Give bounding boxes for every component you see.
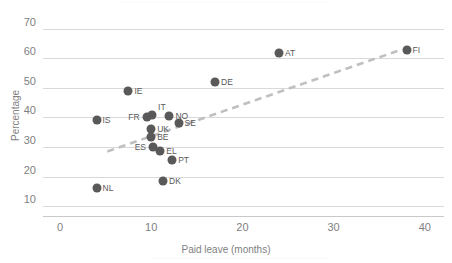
y-tick-70: 70 bbox=[8, 17, 36, 28]
point-label-is: IS bbox=[103, 116, 111, 125]
data-point-el bbox=[156, 147, 165, 156]
point-label-el: EL bbox=[166, 147, 176, 156]
data-point-is bbox=[92, 116, 101, 125]
data-point-dk bbox=[159, 176, 168, 185]
x-axis-label: Paid leave (months) bbox=[0, 244, 452, 255]
data-point-pt bbox=[168, 156, 177, 165]
data-point-fi bbox=[402, 45, 411, 54]
x-tick-20: 20 bbox=[222, 222, 262, 233]
point-label-dk: DK bbox=[169, 177, 181, 186]
point-label-be: BE bbox=[157, 132, 168, 141]
point-label-ie: IE bbox=[134, 87, 142, 96]
top-artifact bbox=[120, 2, 330, 3]
data-point-de bbox=[211, 78, 220, 87]
point-label-at: AT bbox=[285, 48, 295, 57]
point-label-fr: FR bbox=[128, 113, 139, 122]
data-point-nl bbox=[92, 184, 101, 193]
data-point-be bbox=[147, 132, 156, 141]
gridline-20 bbox=[43, 177, 444, 178]
x-tick-30: 30 bbox=[314, 222, 354, 233]
gridline-30 bbox=[43, 147, 444, 148]
data-point-no bbox=[165, 112, 174, 121]
x-axis-line bbox=[43, 216, 444, 217]
x-tick-10: 10 bbox=[131, 222, 171, 233]
y-tick-10: 10 bbox=[8, 194, 36, 205]
scatter-chart: 10203040506070 010203040 NLISIEFRITUKBEE… bbox=[0, 0, 452, 263]
x-tick-40: 40 bbox=[405, 222, 445, 233]
y-tick-20: 20 bbox=[8, 165, 36, 176]
point-label-nl: NL bbox=[103, 184, 114, 193]
gridline-50 bbox=[43, 88, 444, 89]
data-point-se bbox=[174, 119, 183, 128]
gridline-60 bbox=[43, 58, 444, 59]
point-label-de: DE bbox=[221, 78, 233, 87]
y-tick-50: 50 bbox=[8, 76, 36, 87]
y-tick-60: 60 bbox=[8, 46, 36, 57]
gridline-10 bbox=[43, 206, 444, 207]
x-tick-0: 0 bbox=[40, 222, 80, 233]
data-point-it bbox=[148, 110, 157, 119]
data-point-at bbox=[274, 48, 283, 57]
point-label-es: ES bbox=[135, 143, 146, 152]
gridline-70 bbox=[43, 29, 444, 30]
data-point-ie bbox=[124, 86, 133, 95]
point-label-se: SE bbox=[185, 119, 196, 128]
bottom-artifact bbox=[150, 258, 330, 259]
y-axis-label: Percentage bbox=[10, 90, 21, 141]
point-label-it: IT bbox=[158, 102, 166, 111]
point-label-pt: PT bbox=[178, 156, 189, 165]
point-label-fi: FI bbox=[413, 45, 421, 54]
